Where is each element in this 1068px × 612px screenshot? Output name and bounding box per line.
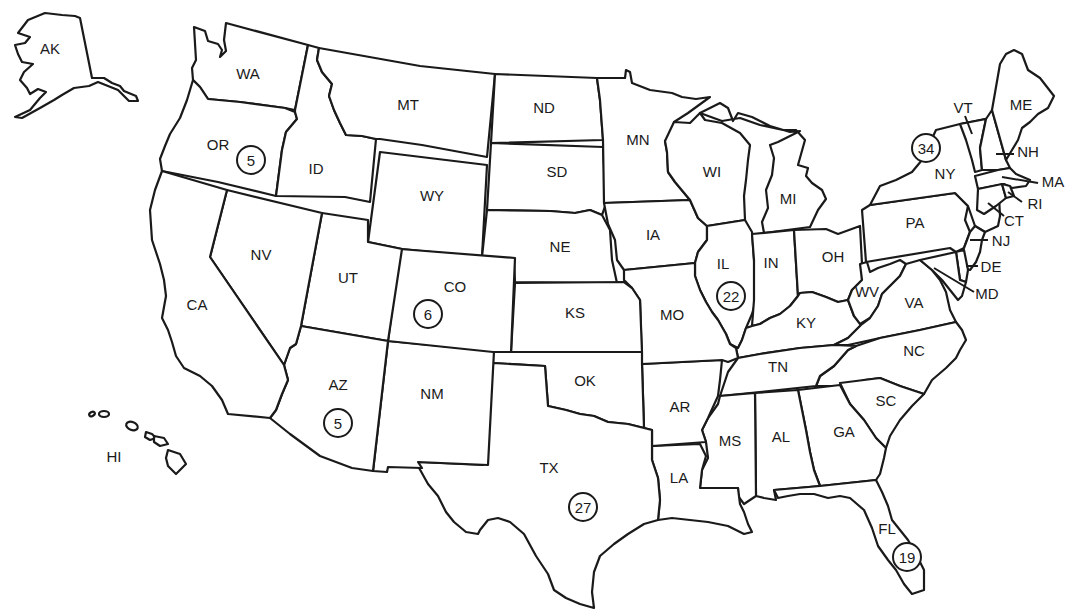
state-co[interactable] [388, 249, 515, 352]
state-label-in: IN [764, 254, 779, 271]
state-label-ky: KY [796, 314, 816, 331]
state-label-nh: NH [1017, 143, 1039, 160]
state-label-hi: HI [107, 448, 122, 465]
badge-value: 27 [575, 499, 592, 516]
state-label-az: AZ [328, 376, 347, 393]
state-label-fl: FL [878, 520, 896, 537]
state-label-ct: CT [1004, 212, 1024, 229]
state-label-nv: NV [251, 246, 272, 263]
state-label-sd: SD [547, 163, 568, 180]
state-label-vt: VT [953, 99, 972, 116]
state-label-pa: PA [906, 214, 925, 231]
state-wy[interactable] [368, 152, 487, 257]
badge-value: 19 [899, 549, 916, 566]
count-badge-il: 22 [717, 282, 745, 310]
state-label-sc: SC [876, 392, 897, 409]
state-label-md: MD [975, 285, 998, 302]
count-badge-az: 5 [324, 409, 352, 437]
state-label-ca: CA [187, 296, 208, 313]
state-label-nm: NM [420, 385, 443, 402]
badge-value: 5 [334, 415, 342, 432]
state-label-nc: NC [903, 342, 925, 359]
state-label-mn: MN [626, 131, 649, 148]
state-label-wv: WV [855, 283, 879, 300]
count-badge-fl: 19 [893, 543, 921, 571]
state-label-ny: NY [935, 165, 956, 182]
state-label-tn: TN [768, 358, 788, 375]
state-label-co: CO [444, 278, 467, 295]
state-label-ms: MS [719, 432, 742, 449]
state-label-nj: NJ [992, 232, 1010, 249]
state-label-la: LA [670, 469, 688, 486]
state-label-id: ID [309, 160, 324, 177]
state-label-me: ME [1010, 96, 1033, 113]
state-label-ok: OK [574, 372, 596, 389]
state-ak[interactable] [15, 13, 138, 118]
state-label-mt: MT [397, 96, 419, 113]
state-label-mi: MI [780, 190, 797, 207]
state-label-ak: AK [40, 40, 60, 57]
state-label-tx: TX [539, 459, 558, 476]
state-label-oh: OH [822, 248, 845, 265]
badge-value: 22 [723, 288, 740, 305]
state-label-wa: WA [236, 65, 260, 82]
count-badge-or: 5 [237, 146, 265, 174]
state-ct[interactable] [977, 184, 1006, 214]
state-nm[interactable] [373, 341, 494, 472]
state-label-al: AL [772, 428, 790, 445]
state-label-nd: ND [533, 99, 555, 116]
state-label-ne: NE [550, 238, 571, 255]
state-label-il: IL [717, 255, 730, 272]
state-hi[interactable] [88, 411, 186, 474]
badge-value: 6 [424, 306, 432, 323]
state-label-ga: GA [833, 423, 855, 440]
state-label-wy: WY [420, 187, 444, 204]
count-badge-co: 6 [414, 300, 442, 328]
us-map: AKWAORIDMTNDMNWIMISDWYNVUTCONEIAILINOHPA… [0, 0, 1068, 612]
state-label-ks: KS [565, 304, 585, 321]
state-label-wi: WI [703, 163, 721, 180]
badge-value: 5 [247, 152, 255, 169]
count-badge-tx: 27 [569, 493, 597, 521]
state-label-or: OR [207, 136, 230, 153]
state-label-ma: MA [1042, 173, 1065, 190]
state-label-mo: MO [660, 306, 684, 323]
state-fl[interactable] [774, 480, 924, 594]
state-label-ar: AR [670, 398, 691, 415]
state-label-ri: RI [1028, 195, 1043, 212]
state-label-de: DE [981, 258, 1002, 275]
state-label-ut: UT [338, 269, 358, 286]
state-label-va: VA [905, 294, 924, 311]
count-badge-ny: 34 [912, 134, 940, 162]
badge-value: 34 [918, 140, 935, 157]
state-label-ia: IA [646, 226, 660, 243]
